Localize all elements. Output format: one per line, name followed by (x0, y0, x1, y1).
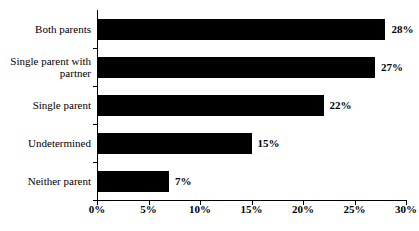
chart-category-row: 15%Undetermined (97, 124, 406, 162)
chart-category-row: 22%Single parent (97, 86, 406, 124)
chart-bar[interactable] (97, 171, 169, 192)
chart-bar[interactable] (97, 57, 375, 78)
chart-bar-value-label: 15% (258, 138, 280, 149)
y-axis-tick (93, 200, 98, 201)
chart-bar-value-label: 27% (381, 62, 403, 73)
chart-category-row: 28%Both parents (97, 10, 406, 48)
chart-category-row: 7%Neither parent (97, 162, 406, 200)
x-axis-tick-label: 10% (189, 204, 211, 215)
chart-category-label: Undetermined (0, 137, 97, 149)
chart-bar[interactable] (97, 19, 385, 40)
chart-category-label: Both parents (0, 23, 97, 35)
chart-bar-value-label: 28% (391, 24, 413, 35)
chart-bar[interactable] (97, 133, 252, 154)
plot-area: 28%Both parents27%Single parent with par… (97, 10, 406, 200)
chart-bar[interactable] (97, 95, 324, 116)
x-axis-tick-label: 0% (89, 204, 106, 215)
chart-category-label: Single parent (0, 99, 97, 111)
x-axis-tick-label: 5% (140, 204, 157, 215)
chart-category-label: Single parent with partner (0, 55, 97, 79)
x-axis-tick-label: 30% (395, 204, 417, 215)
x-axis-tick-label: 20% (292, 204, 314, 215)
x-axis-tick-label: 25% (344, 204, 366, 215)
chart-category-label: Neither parent (0, 175, 97, 187)
chart-bar-value-label: 22% (330, 100, 352, 111)
x-axis-tick-label: 15% (241, 204, 263, 215)
bar-chart: 28%Both parents27%Single parent with par… (0, 0, 419, 231)
chart-bar-value-label: 7% (175, 176, 192, 187)
chart-category-row: 27%Single parent with partner (97, 48, 406, 86)
